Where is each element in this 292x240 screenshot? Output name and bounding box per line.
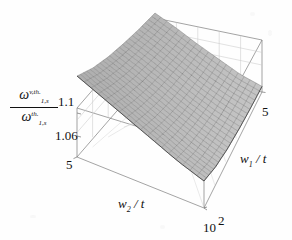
z-axis-label: ωv,th.1,s ωth.1,s xyxy=(8,88,60,127)
scan-speck xyxy=(250,12,255,16)
x-axis-label-base: w xyxy=(118,196,127,211)
y-axis-label: w1 / t xyxy=(240,152,266,169)
y-tick-label-2: 2 xyxy=(218,214,225,227)
z-num-subscript: 1,s xyxy=(41,97,49,105)
x-axis-label: w2 / t xyxy=(118,197,144,214)
scan-speck xyxy=(160,225,165,229)
fraction-bar xyxy=(10,107,58,108)
omega-symbol-denominator: ω xyxy=(21,109,31,124)
surface-body xyxy=(77,13,262,181)
scan-speck xyxy=(30,215,36,218)
z-den-subscript: 1,s xyxy=(39,119,47,127)
x-tick-label-10: 10 xyxy=(203,221,216,234)
z-tick-label-1_06: 1.06 xyxy=(55,129,78,142)
y-axis-label-base: w xyxy=(240,151,249,166)
z-den-superscript: th. xyxy=(31,110,38,118)
y-axis-label-suffix: / t xyxy=(253,151,267,166)
x-axis-label-suffix: / t xyxy=(131,196,145,211)
z-num-superscript: v,th. xyxy=(29,88,41,96)
x-tick-label-5: 5 xyxy=(66,158,73,171)
y-tick-label-5: 5 xyxy=(262,105,269,118)
figure-panel: ωv,th.1,s ωth.1,s 1.1 1.06 5 10 2 5 w2 /… xyxy=(0,0,292,240)
z-axis-label-numerator: ωv,th.1,s xyxy=(8,88,60,105)
z-tick-label-1_1: 1.1 xyxy=(58,95,74,108)
scan-speck xyxy=(268,30,272,36)
omega-symbol-numerator: ω xyxy=(19,87,29,102)
z-axis-label-denominator: ωth.1,s xyxy=(8,110,60,127)
